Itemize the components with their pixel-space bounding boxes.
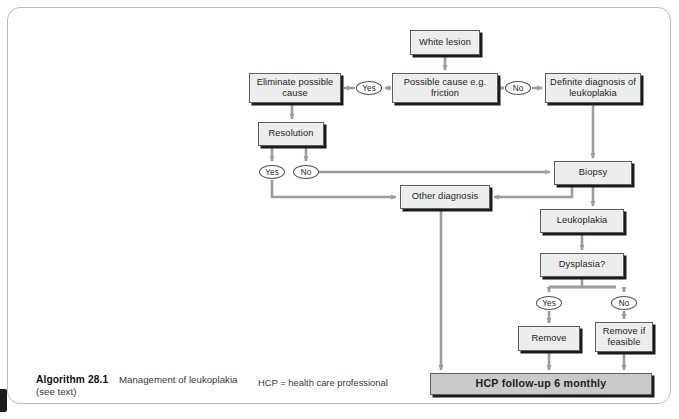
node-dysplasia[interactable]: Dysplasia? bbox=[540, 253, 624, 277]
node-remove[interactable]: Remove bbox=[518, 326, 580, 351]
decision-label: Yes bbox=[265, 168, 279, 177]
decision-label: No bbox=[513, 84, 524, 93]
flowchart: White lesion Possible cause e.g. frictio… bbox=[0, 0, 679, 419]
figure-legend: HCP = health care professional bbox=[258, 377, 388, 388]
node-label: Possible cause e.g. friction bbox=[396, 77, 494, 100]
node-label: Definite diagnosis of leukoplakia bbox=[549, 77, 637, 100]
node-label: Other diagnosis bbox=[412, 191, 479, 202]
node-label: Resolution bbox=[269, 128, 314, 139]
node-label: Biopsy bbox=[579, 167, 608, 178]
node-label: Remove bbox=[531, 333, 566, 344]
node-label: White lesion bbox=[419, 37, 471, 48]
decision-label: Yes bbox=[542, 299, 556, 308]
decision-no-dysplasia[interactable]: No bbox=[611, 296, 637, 310]
node-possible-cause[interactable]: Possible cause e.g. friction bbox=[392, 73, 498, 103]
edge-biopsy-otherdiagnosis bbox=[494, 186, 572, 197]
decision-yes-resolution[interactable]: Yes bbox=[259, 165, 285, 179]
caption-title: Management of leukoplakia bbox=[119, 374, 237, 385]
node-other-diagnosis[interactable]: Other diagnosis bbox=[400, 185, 490, 209]
decision-label: Yes bbox=[362, 84, 376, 93]
node-biopsy[interactable]: Biopsy bbox=[554, 161, 632, 185]
node-leukoplakia[interactable]: Leukoplakia bbox=[540, 209, 624, 233]
node-definite-diagnosis[interactable]: Definite diagnosis of leukoplakia bbox=[545, 73, 641, 103]
node-eliminate-possible-cause[interactable]: Eliminate possible cause bbox=[249, 73, 341, 103]
decision-yes-possible-cause[interactable]: Yes bbox=[356, 81, 382, 95]
decision-label: No bbox=[301, 168, 312, 177]
node-label: Dysplasia? bbox=[559, 259, 605, 270]
node-label: Leukoplakia bbox=[557, 215, 608, 226]
decision-no-resolution[interactable]: No bbox=[293, 165, 319, 179]
decision-no-possible-cause[interactable]: No bbox=[505, 81, 531, 95]
node-remove-if-feasible[interactable]: Remove if feasible bbox=[595, 322, 653, 352]
node-label: Eliminate possible cause bbox=[253, 77, 337, 100]
edge-yes-otherdiagnosis bbox=[272, 180, 396, 197]
node-label: HCP follow-up 6 monthly bbox=[476, 378, 607, 389]
decision-yes-dysplasia[interactable]: Yes bbox=[536, 296, 562, 310]
node-resolution[interactable]: Resolution bbox=[258, 122, 324, 146]
decision-label: No bbox=[619, 299, 630, 308]
figure-page: White lesion Possible cause e.g. frictio… bbox=[0, 0, 679, 419]
caption-label: Algorithm 28.1 bbox=[36, 374, 108, 385]
node-hcp-followup[interactable]: HCP follow-up 6 monthly bbox=[430, 373, 652, 395]
node-white-lesion[interactable]: White lesion bbox=[410, 30, 480, 55]
node-label: Remove if feasible bbox=[599, 326, 649, 349]
